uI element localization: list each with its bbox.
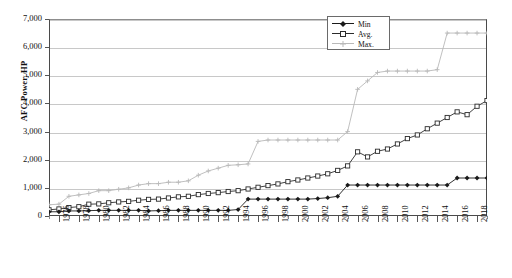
- open-square-marker: [385, 147, 389, 151]
- open-cross-marker: [186, 179, 191, 184]
- open-cross-marker: [485, 31, 487, 36]
- open-square-icon: [340, 31, 346, 37]
- open-square-marker: [316, 174, 320, 178]
- open-cross-marker: [286, 138, 291, 143]
- x-tick-label: 1986: [162, 205, 171, 222]
- open-cross-marker: [455, 31, 460, 36]
- filled-diamond-marker: [315, 196, 320, 201]
- open-cross-marker: [196, 173, 201, 178]
- open-square-marker: [485, 99, 487, 103]
- open-cross-marker: [465, 31, 470, 36]
- x-tick-mark-major: [417, 216, 418, 222]
- x-tick-mark-major: [338, 216, 339, 222]
- open-cross-marker: [325, 138, 330, 143]
- y-tick-label: 4,000: [0, 97, 42, 107]
- x-tick-label: 2002: [321, 205, 330, 222]
- legend-swatch-min: [331, 19, 355, 29]
- y-tick-label: 2,000: [0, 154, 42, 164]
- x-tick-mark-major: [437, 216, 438, 222]
- filled-diamond-marker: [435, 183, 440, 188]
- filled-diamond-marker: [375, 183, 380, 188]
- x-tick-label: 1988: [182, 205, 191, 222]
- filled-diamond-marker: [485, 176, 487, 181]
- legend-item-max: Max.: [331, 39, 386, 49]
- open-cross-marker: [435, 67, 440, 72]
- x-tick-mark-major: [99, 216, 100, 222]
- open-square-marker: [375, 149, 379, 153]
- open-square-marker: [435, 121, 439, 125]
- x-tick-label: 1984: [142, 205, 151, 222]
- y-tick-mark: [45, 19, 49, 20]
- open-square-marker: [156, 197, 160, 201]
- open-square-marker: [365, 155, 369, 159]
- chart-legend: Min Avg. Max.: [327, 16, 390, 50]
- filled-diamond-marker: [196, 208, 201, 213]
- x-tick-label: 2000: [301, 205, 310, 222]
- x-tick-label: 1990: [202, 205, 211, 222]
- x-tick-mark-major: [457, 216, 458, 222]
- x-tick-mark-major: [218, 216, 219, 222]
- x-tick-mark-major: [378, 216, 379, 222]
- open-square-marker: [306, 176, 310, 180]
- open-cross-marker: [87, 191, 92, 196]
- x-tick-label: 2006: [361, 205, 370, 222]
- x-tick-mark-major: [159, 216, 160, 222]
- open-cross-marker: [385, 69, 390, 74]
- x-tick-mark-major: [238, 216, 239, 222]
- filled-diamond-marker: [425, 183, 430, 188]
- open-square-marker: [266, 184, 270, 188]
- filled-diamond-marker: [305, 197, 310, 202]
- x-tick-label: 2008: [381, 205, 390, 222]
- y-tick-mark: [45, 47, 49, 48]
- x-tick-mark-major: [278, 216, 279, 222]
- open-cross-marker: [246, 162, 251, 167]
- series-avg: [49, 99, 487, 212]
- x-tick-label: 2010: [401, 205, 410, 222]
- x-tick-mark-major: [477, 216, 478, 222]
- open-cross-marker: [216, 166, 221, 171]
- filled-diamond-marker: [286, 197, 291, 202]
- filled-diamond-marker: [216, 208, 221, 213]
- y-tick-mark: [45, 132, 49, 133]
- x-tick-label: 2018: [480, 205, 489, 222]
- open-cross-marker: [415, 69, 420, 74]
- open-square-marker: [166, 196, 170, 200]
- filled-diamond-marker: [295, 197, 300, 202]
- legend-swatch-avg: [331, 29, 355, 39]
- chart-figure: AFC Power, HP Min Avg.: [0, 0, 512, 278]
- filled-diamond-marker: [415, 183, 420, 188]
- open-square-marker: [296, 178, 300, 182]
- x-tick-mark-major: [358, 216, 359, 222]
- open-square-marker: [336, 168, 340, 172]
- open-square-marker: [146, 197, 150, 201]
- filled-diamond-marker: [355, 183, 360, 188]
- y-tick-label: 7,000: [0, 13, 42, 23]
- open-cross-marker: [156, 181, 161, 186]
- open-square-marker: [445, 115, 449, 119]
- legend-label-max: Max.: [358, 40, 374, 49]
- open-cross-marker: [106, 188, 111, 193]
- open-square-marker: [326, 172, 330, 176]
- open-cross-marker: [236, 162, 241, 167]
- open-cross-marker: [49, 202, 51, 207]
- open-square-marker: [395, 142, 399, 146]
- open-square-marker: [117, 200, 121, 204]
- x-tick-mark-major: [139, 216, 140, 222]
- open-square-marker: [415, 133, 419, 137]
- series-line: [49, 101, 487, 210]
- x-tick-label: 1992: [222, 205, 231, 222]
- open-cross-marker: [475, 31, 480, 36]
- open-cross-marker: [226, 163, 231, 168]
- filled-diamond-marker: [385, 183, 390, 188]
- filled-diamond-marker: [365, 183, 370, 188]
- x-tick-label: 2012: [421, 205, 430, 222]
- open-cross-icon: [340, 41, 346, 47]
- x-tick-label: 1976: [62, 205, 71, 222]
- open-cross-marker: [315, 138, 320, 143]
- legend-item-avg: Avg.: [331, 29, 386, 39]
- open-square-marker: [176, 195, 180, 199]
- filled-diamond-marker: [116, 208, 121, 213]
- filled-diamond-icon: [340, 21, 346, 27]
- open-cross-marker: [126, 186, 131, 191]
- y-tick-label: 6,000: [0, 41, 42, 51]
